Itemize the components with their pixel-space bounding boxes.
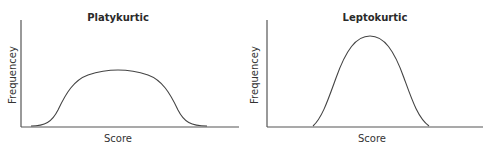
y-axis-label: Frequencey <box>249 46 260 104</box>
x-axis-label: Score <box>104 133 132 144</box>
chart-title: Platykurtic <box>87 12 149 23</box>
platykurtic-chart: Platykurtic Score Frequencey <box>7 12 239 144</box>
distribution-curve <box>31 70 207 126</box>
distribution-curve <box>313 36 429 126</box>
chart-title: Leptokurtic <box>343 12 408 23</box>
y-axis-label: Frequencey <box>7 46 18 104</box>
kurtosis-figure: Platykurtic Score Frequencey Leptokurtic… <box>0 0 486 154</box>
x-axis-label: Score <box>358 133 386 144</box>
leptokurtic-chart: Leptokurtic Score Frequencey <box>249 12 483 144</box>
